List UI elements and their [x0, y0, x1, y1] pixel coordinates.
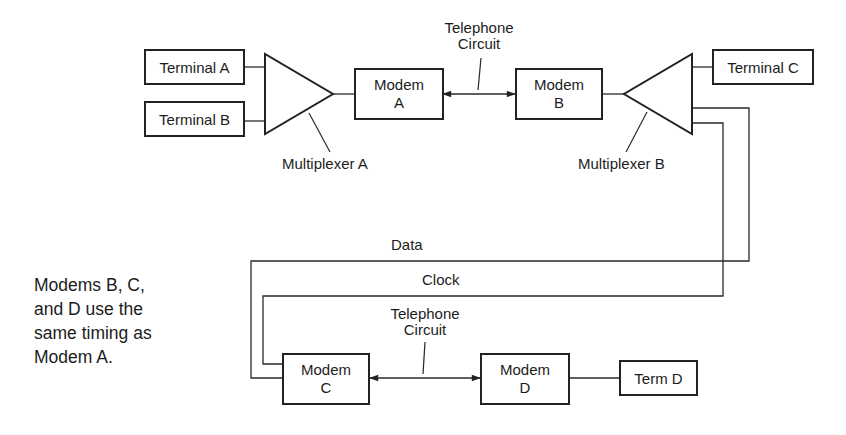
- terminal-c-box: Terminal C: [713, 50, 813, 84]
- terminal-a-box: Terminal A: [145, 50, 244, 84]
- note-line1: Modems B, C,: [34, 275, 145, 295]
- modem-c-label-line2: C: [321, 379, 332, 396]
- timing-note: Modems B, C, and D use the same timing a…: [34, 275, 152, 367]
- telephone-circuit-bottom-leader: [423, 342, 425, 374]
- telephone-circuit-top-line2: Circuit: [458, 35, 501, 52]
- multiplexer-a-leader: [309, 113, 330, 152]
- clock-label: Clock: [422, 271, 460, 288]
- data-line: [251, 108, 749, 378]
- term-d-label: Term D: [634, 370, 683, 387]
- multiplexer-a-label: Multiplexer A: [282, 155, 368, 172]
- terminal-b-label: Terminal B: [159, 111, 230, 128]
- modem-c-label-line1: Modem: [301, 361, 351, 378]
- terminal-c-label: Terminal C: [727, 59, 799, 76]
- data-label: Data: [391, 236, 423, 253]
- note-line3: same timing as: [34, 323, 152, 343]
- modem-c-box: Modem C: [283, 354, 369, 404]
- modem-d-label-line1: Modem: [500, 361, 550, 378]
- telephone-circuit-bottom-line1: Telephone: [390, 305, 459, 322]
- telephone-circuit-top-line1: Telephone: [444, 19, 513, 36]
- note-line4: Modem A.: [34, 347, 113, 367]
- modem-b-label-line2: B: [554, 94, 564, 111]
- multiplexer-b-label: Multiplexer B: [578, 155, 665, 172]
- modem-b-label-line1: Modem: [534, 76, 584, 93]
- modem-a-label-line2: A: [394, 94, 404, 111]
- note-line2: and D use the: [34, 299, 143, 319]
- terminal-b-box: Terminal B: [145, 102, 244, 136]
- telephone-circuit-top-leader: [478, 58, 481, 90]
- modem-d-label-line2: D: [520, 379, 531, 396]
- multiplexer-b-triangle: [624, 54, 692, 134]
- telephone-circuit-bottom-line2: Circuit: [404, 321, 447, 338]
- multiplexer-b-leader: [626, 112, 647, 152]
- modem-a-box: Modem A: [355, 69, 443, 119]
- multiplexer-modem-diagram: Terminal A Terminal B Terminal C Term D …: [0, 0, 846, 435]
- modem-b-box: Modem B: [516, 69, 602, 119]
- multiplexer-a-triangle: [265, 54, 333, 134]
- terminal-a-label: Terminal A: [159, 59, 229, 76]
- modem-d-box: Modem D: [481, 354, 569, 404]
- term-d-box: Term D: [620, 361, 697, 395]
- modem-a-label-line1: Modem: [374, 76, 424, 93]
